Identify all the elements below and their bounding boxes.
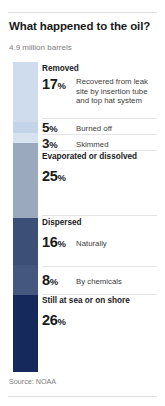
value-dispersed-chemicals-number: 8 [42, 272, 50, 288]
group-heading-dispersed: Dispersed [42, 218, 82, 227]
percent-sign: % [49, 139, 57, 150]
value-evaporated-number: 25 [42, 168, 58, 184]
row-divider-dispersed [42, 215, 157, 216]
desc-recovered: Recovered from leak site by insertion tu… [76, 77, 162, 106]
percent-sign: % [58, 172, 66, 183]
value-still-at-sea-number: 26 [42, 312, 58, 328]
desc-chemicals: By chemicals [76, 277, 162, 287]
group-heading-still-at-sea: Still at sea or on shore [42, 296, 130, 305]
desc-skimmed: Skimmed [76, 140, 162, 150]
group-heading-removed: Removed [42, 64, 79, 73]
value-recovered-number: 17 [42, 76, 58, 92]
label-column: Removed 17% Recovered from leak site by … [0, 0, 165, 406]
value-dispersed-naturally: 16% [42, 234, 66, 250]
percent-sign: % [58, 238, 66, 249]
desc-burned-off: Burned off [76, 124, 162, 134]
desc-naturally: Naturally [76, 239, 162, 249]
percent-sign: % [58, 80, 66, 91]
value-burned-off: 5% [42, 120, 57, 135]
oil-spill-infographic: What happened to the oil? 4.9 million ba… [0, 0, 165, 406]
value-skimmed: 3% [42, 136, 57, 151]
value-recovered: 17% [42, 76, 66, 92]
group-heading-evaporated: Evaporated or dissolved [42, 152, 137, 161]
percent-sign: % [58, 316, 66, 327]
value-evaporated: 25% [42, 168, 66, 184]
row-divider-still-at-sea [42, 294, 157, 295]
row-divider-burned [42, 118, 157, 119]
row-divider-skimmed [42, 134, 157, 135]
row-divider-evaporated [42, 150, 157, 151]
value-dispersed-chemicals: 8% [42, 272, 58, 288]
percent-sign: % [50, 276, 58, 287]
source-attribution: Source: NOAA [9, 377, 56, 386]
bottom-divider [8, 396, 157, 397]
value-still-at-sea: 26% [42, 312, 66, 328]
row-divider-chemicals [42, 266, 157, 267]
percent-sign: % [49, 123, 57, 134]
value-dispersed-naturally-number: 16 [42, 234, 58, 250]
